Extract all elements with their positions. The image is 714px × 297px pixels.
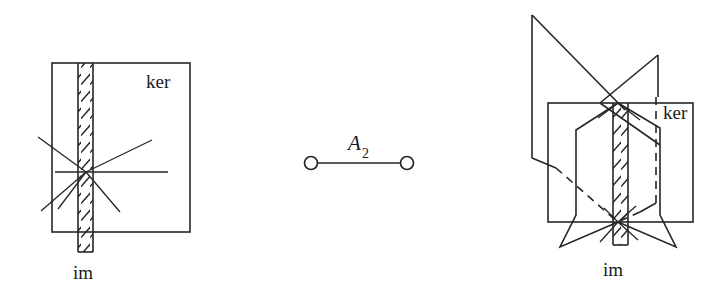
left-im-label: im [73, 262, 93, 283]
right-plane-a [532, 15, 625, 224]
dynkin-label-a: A [346, 131, 361, 155]
left-panel-group: ker im [38, 63, 190, 283]
right-ker-label: ker [663, 102, 688, 123]
dynkin-node-1 [305, 157, 318, 170]
plane-b-lower-diagonal [640, 203, 656, 212]
right-panel-group: ker im [532, 15, 693, 280]
plane-a-top-diagonal [532, 15, 625, 110]
plane-b-top-diagonal [600, 55, 658, 103]
left-ray-up-right [86, 140, 152, 172]
left-ray-bundle [38, 137, 168, 212]
dynkin-node-2 [401, 157, 414, 170]
right-image-strip [613, 103, 628, 245]
middle-plane-left-outline [560, 103, 618, 247]
center-panel-group: A 2 [305, 131, 414, 170]
left-image-strip [78, 63, 93, 252]
right-im-label: im [603, 259, 623, 280]
figure-root: ker im A 2 [0, 0, 714, 297]
dynkin-label-subscript: 2 [362, 146, 369, 161]
plane-a-bottom-short [532, 158, 556, 168]
right-plane-b [600, 55, 660, 222]
plane-a-dashed-diagonal [556, 168, 620, 224]
left-ker-label: ker [146, 71, 171, 92]
figure-canvas: ker im A 2 [0, 0, 714, 297]
